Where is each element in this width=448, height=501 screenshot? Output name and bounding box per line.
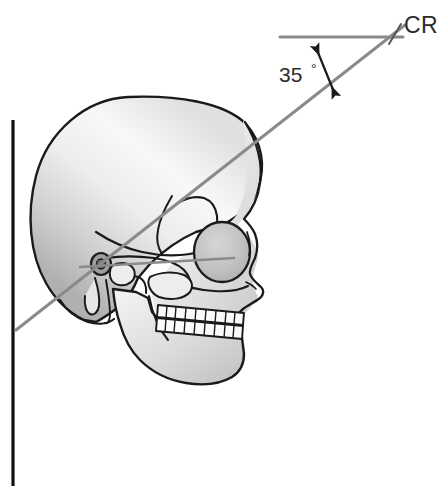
cr-tick-mark	[389, 24, 401, 44]
figure-root: CR 35 °	[0, 0, 448, 501]
angle-degree-symbol: °	[311, 61, 317, 77]
skull-illustration	[31, 97, 264, 385]
central-ray-label: CR	[404, 12, 438, 38]
maxillary-sinus	[148, 273, 192, 300]
orbit	[194, 222, 250, 282]
angle-value-label: 35	[279, 63, 302, 86]
skull-angulation-diagram: CR 35 °	[0, 0, 448, 501]
